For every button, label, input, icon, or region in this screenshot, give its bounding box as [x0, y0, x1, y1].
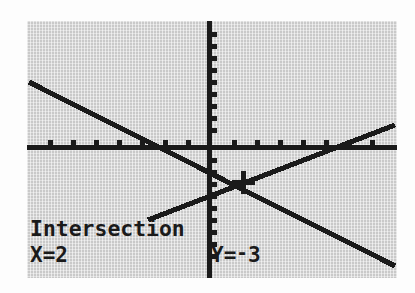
- y-axis-line: [207, 21, 212, 278]
- screenshot-page: Intersection X=2 Y=-3: [0, 0, 415, 293]
- y-number: 3: [248, 243, 261, 267]
- y-prefix: Y=: [211, 243, 236, 267]
- intersection-label: Intersection: [30, 219, 185, 240]
- y-value-readout: Y=-3: [211, 245, 261, 266]
- y-negative-sign: -: [236, 241, 248, 264]
- x-value-readout: X=2: [30, 245, 68, 266]
- calculator-lcd-screen: Intersection X=2 Y=-3: [27, 21, 397, 278]
- intersection-cursor-icon: [232, 171, 255, 194]
